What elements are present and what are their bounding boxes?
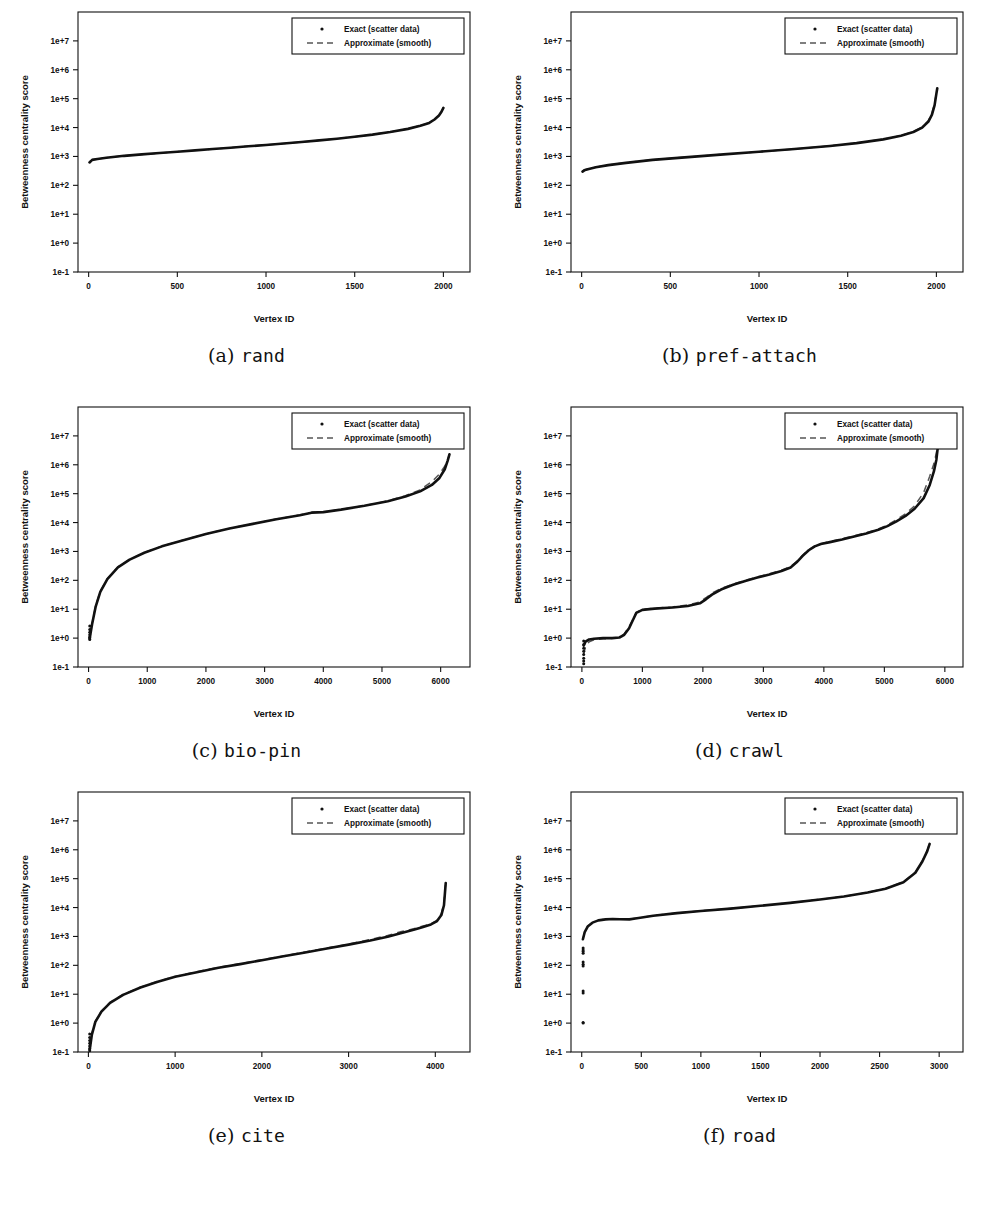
y-tick-label: 1e+4 (543, 904, 562, 913)
caption-name: cite (241, 1125, 285, 1146)
x-tick-label: 2000 (252, 1062, 271, 1071)
x-tick-label: 2000 (927, 282, 946, 291)
subplot-grid: 1e-11e+01e+11e+21e+31e+41e+51e+61e+70500… (0, 0, 986, 1180)
y-tick-label: 1e-1 (52, 663, 69, 672)
scatter-point (582, 643, 585, 646)
x-tick-label: 1500 (345, 282, 364, 291)
y-tick-label: 1e+3 (543, 932, 562, 941)
series-approximate (583, 442, 938, 654)
legend-exact-marker (320, 422, 323, 425)
x-axis-title: Vertex ID (746, 708, 787, 719)
caption-tag: (c) (192, 739, 224, 761)
x-tick-label: 0 (86, 677, 91, 686)
caption-name: bio-pin (224, 740, 301, 761)
x-tick-label: 1000 (633, 677, 652, 686)
scatter-point (581, 1021, 584, 1024)
subplot-caption-cite: (e) cite (208, 1124, 285, 1146)
y-tick-label: 1e+2 (543, 961, 562, 970)
x-tick-label: 500 (663, 282, 677, 291)
x-tick-label: 0 (579, 1062, 584, 1071)
legend-exact-label: Exact (scatter data) (837, 805, 913, 814)
scatter-point (88, 1032, 91, 1035)
legend-box (292, 18, 464, 54)
scatter-point (581, 946, 584, 949)
legend-approx-label: Approximate (smooth) (837, 39, 925, 48)
series-exact (89, 108, 443, 163)
scatter-point (582, 650, 585, 653)
x-tick-label: 5000 (875, 677, 894, 686)
subplot-road: 1e-11e+01e+11e+21e+31e+41e+51e+61e+70500… (493, 780, 986, 1180)
plot-area-crawl: 1e-11e+01e+11e+21e+31e+41e+51e+61e+70100… (505, 395, 975, 725)
legend-approx-label: Approximate (smooth) (837, 819, 925, 828)
caption-name: road (732, 1125, 776, 1146)
y-tick-label: 1e-1 (545, 1048, 562, 1057)
scatter-point (582, 660, 585, 663)
y-tick-label: 1e+5 (50, 490, 69, 499)
scatter-point (88, 628, 91, 631)
caption-tag: (a) (208, 344, 241, 366)
scatter-point (88, 1042, 91, 1045)
y-axis-title: Betweenness centrality score (19, 470, 30, 604)
scatter-point (581, 961, 584, 964)
legend-exact-label: Exact (scatter data) (344, 25, 420, 34)
legend-exact-marker (320, 807, 323, 810)
legend-box (292, 413, 464, 449)
subplot-rand: 1e-11e+01e+11e+21e+31e+41e+51e+61e+70500… (0, 0, 493, 395)
caption-tag: (e) (208, 1124, 241, 1146)
legend-exact-marker (813, 27, 816, 30)
y-tick-label: 1e+5 (50, 95, 69, 104)
y-tick-label: 1e+7 (50, 432, 69, 441)
subplot-bio-pin: 1e-11e+01e+11e+21e+31e+41e+51e+61e+70100… (0, 395, 493, 780)
subplot-caption-road: (f) road (703, 1124, 776, 1146)
x-axis-title: Vertex ID (746, 1093, 787, 1104)
legend-box (785, 18, 957, 54)
x-tick-label: 1500 (838, 282, 857, 291)
caption-tag: (f) (703, 1124, 732, 1146)
y-tick-label: 1e+5 (543, 875, 562, 884)
figure-root: 1e-11e+01e+11e+21e+31e+41e+51e+61e+70500… (0, 0, 986, 1225)
x-axis-title: Vertex ID (746, 313, 787, 324)
x-tick-label: 4000 (426, 1062, 445, 1071)
y-tick-label: 1e+3 (50, 932, 69, 941)
scatter-point (582, 639, 585, 642)
x-tick-label: 500 (634, 1062, 648, 1071)
y-tick-label: 1e+3 (50, 547, 69, 556)
y-tick-label: 1e+7 (543, 432, 562, 441)
scatter-point (582, 647, 585, 650)
y-tick-label: 1e+2 (50, 961, 69, 970)
y-tick-label: 1e+0 (543, 239, 562, 248)
scatter-point (88, 1045, 91, 1048)
x-tick-label: 2500 (870, 1062, 889, 1071)
legend-exact-label: Exact (scatter data) (344, 805, 420, 814)
y-tick-label: 1e+7 (50, 817, 69, 826)
legend-box (785, 798, 957, 834)
x-tick-label: 3000 (255, 677, 274, 686)
y-tick-label: 1e+4 (543, 124, 562, 133)
y-axis-title: Betweenness centrality score (512, 855, 523, 989)
x-tick-label: 3000 (339, 1062, 358, 1071)
caption-name: crawl (729, 740, 784, 761)
y-tick-label: 1e+4 (50, 124, 69, 133)
x-tick-label: 2000 (693, 677, 712, 686)
series-exact (583, 442, 938, 645)
y-tick-label: 1e+7 (543, 37, 562, 46)
legend-approx-label: Approximate (smooth) (344, 434, 432, 443)
y-tick-label: 1e+4 (50, 519, 69, 528)
scatter-point (88, 625, 91, 628)
x-tick-label: 5000 (372, 677, 391, 686)
plot-area-road: 1e-11e+01e+11e+21e+31e+41e+51e+61e+70500… (505, 780, 975, 1110)
x-tick-label: 0 (86, 282, 91, 291)
caption-name: rand (241, 345, 285, 366)
subplot-caption-rand: (a) rand (208, 344, 285, 366)
y-tick-label: 1e+2 (543, 181, 562, 190)
y-tick-label: 1e+0 (543, 634, 562, 643)
plot-area-bio-pin: 1e-11e+01e+11e+21e+31e+41e+51e+61e+70100… (12, 395, 482, 725)
subplot-crawl: 1e-11e+01e+11e+21e+31e+41e+51e+61e+70100… (493, 395, 986, 780)
y-tick-label: 1e+3 (50, 152, 69, 161)
scatter-point (581, 989, 584, 992)
x-tick-label: 3000 (930, 1062, 949, 1071)
caption-tag: (b) (662, 344, 696, 366)
legend-exact-marker (813, 807, 816, 810)
legend-approx-label: Approximate (smooth) (344, 39, 432, 48)
y-tick-label: 1e+6 (50, 66, 69, 75)
